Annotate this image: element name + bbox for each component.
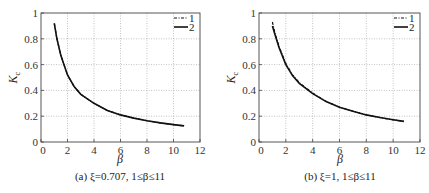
y-axis-label: Kc — [6, 71, 22, 84]
y-tick-label: 0 — [251, 136, 257, 148]
x-tick-label: 10 — [168, 144, 180, 156]
x-tick-label: 12 — [415, 144, 426, 156]
x-axis-label: β — [116, 152, 123, 166]
x-tick-label: 8 — [364, 144, 370, 156]
x-tick-label: 4 — [91, 144, 97, 156]
legend: 12 — [174, 12, 195, 33]
y-tick-label: 0.6 — [24, 59, 38, 71]
x-tick-label: 8 — [144, 144, 150, 156]
x-axis-label: β — [336, 152, 343, 166]
chart-panel-b: 02468101200.20.40.60.81βKc12(b) ξ=1, 1≤β… — [224, 7, 426, 183]
x-tick-label: 10 — [388, 144, 400, 156]
y-tick-label: 1 — [251, 7, 257, 19]
legend-entry-2: 2 — [409, 21, 415, 33]
y-tick-label: 0.8 — [242, 33, 256, 45]
grid — [259, 13, 420, 142]
x-tick-label: 2 — [283, 144, 289, 156]
y-tick-label: 0.4 — [24, 84, 38, 96]
panel-caption: (a) ξ=0.707, 1≤β≤11 — [75, 170, 165, 183]
y-axis-label: Kc — [224, 71, 240, 84]
series-2-line — [272, 26, 404, 122]
x-tick-label: 0 — [40, 144, 46, 156]
x-tick-label: 2 — [65, 144, 71, 156]
x-tick-label: 12 — [195, 144, 206, 156]
grid — [41, 13, 200, 142]
x-tick-label: 4 — [310, 144, 316, 156]
legend-entry-2: 2 — [189, 21, 195, 33]
figure: 02468101200.20.40.60.81βKc12(a) ξ=0.707,… — [0, 0, 429, 193]
y-tick-label: 0.4 — [242, 84, 256, 96]
x-tick-label: 0 — [258, 144, 264, 156]
y-tick-label: 0 — [33, 136, 39, 148]
y-tick-label: 1 — [33, 7, 39, 19]
chart-panel-a: 02468101200.20.40.60.81βKc12(a) ξ=0.707,… — [6, 7, 206, 183]
panel-caption: (b) ξ=1, 1≤β≤11 — [304, 170, 375, 183]
y-tick-label: 0.6 — [242, 59, 256, 71]
legend: 12 — [394, 12, 415, 33]
y-tick-label: 0.2 — [242, 110, 256, 122]
y-tick-label: 0.2 — [24, 110, 38, 122]
axes-frame — [259, 13, 420, 142]
axes-frame — [41, 13, 200, 142]
y-tick-label: 0.8 — [24, 33, 38, 45]
